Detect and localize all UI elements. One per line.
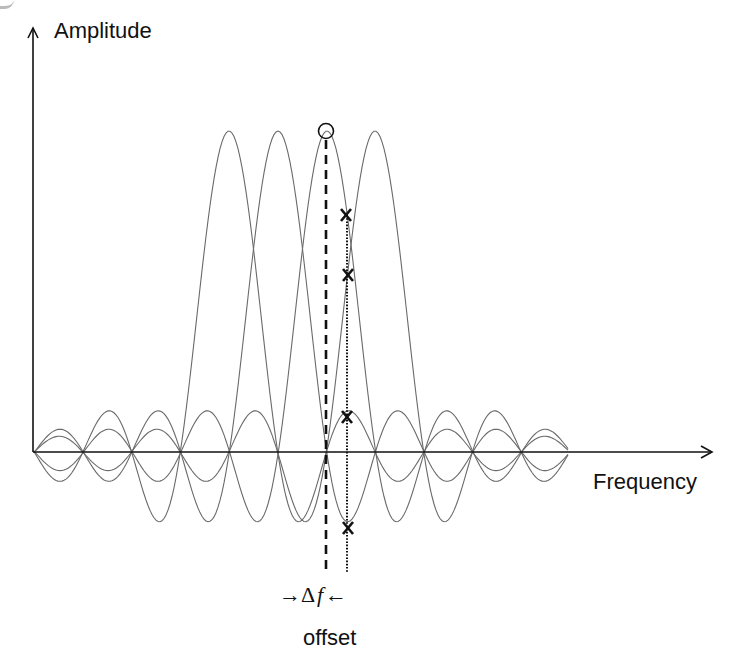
y-axis-label: Amplitude — [54, 18, 152, 44]
offset-label: offset — [303, 625, 356, 651]
sinc-curve — [34, 131, 568, 522]
delta-f-label: →Δ f ← — [279, 582, 347, 608]
subcarrier-curves — [34, 131, 568, 522]
annotations — [319, 124, 354, 574]
delta-prefix: →Δ — [279, 582, 315, 607]
sinc-curve — [34, 131, 568, 522]
delta-var: f — [317, 582, 323, 607]
sinc-curve — [34, 131, 568, 522]
axes — [28, 28, 712, 458]
sinc-curve — [34, 131, 568, 522]
delta-suffix: ← — [325, 582, 347, 607]
ofdm-spectrum-diagram — [0, 0, 743, 670]
x-axis-label: Frequency — [593, 469, 697, 495]
